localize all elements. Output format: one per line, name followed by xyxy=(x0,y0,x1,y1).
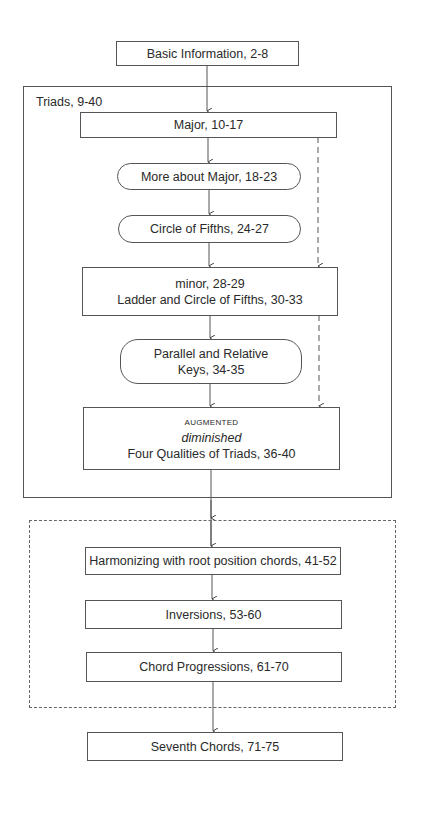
node-label-line1: Parallel and Relative xyxy=(154,346,269,362)
node-label-line1: minor, 28-29 xyxy=(175,276,244,292)
node-label: Seventh Chords, 71-75 xyxy=(151,739,280,755)
group-label-triads: Triads, 9-40 xyxy=(36,95,102,109)
node-parallel-relative-keys: Parallel and Relative Keys, 34-35 xyxy=(120,339,302,384)
node-chord-progressions: Chord Progressions, 61-70 xyxy=(86,652,342,682)
node-four-qualities: AUGMENTED diminished Four Qualities of T… xyxy=(83,407,340,470)
node-label: Chord Progressions, 61-70 xyxy=(139,659,288,675)
node-label-augmented: AUGMENTED xyxy=(185,416,239,430)
node-more-about-major: More about Major, 18-23 xyxy=(117,163,301,190)
node-label: Basic Information, 2-8 xyxy=(147,46,269,62)
node-label: Major, 10-17 xyxy=(174,117,243,133)
node-circle-of-fifths: Circle of Fifths, 24-27 xyxy=(118,215,301,243)
node-harmonizing: Harmonizing with root position chords, 4… xyxy=(85,547,341,575)
node-seventh-chords: Seventh Chords, 71-75 xyxy=(87,732,343,761)
node-inversions: Inversions, 53-60 xyxy=(85,600,342,629)
node-major: Major, 10-17 xyxy=(80,112,337,138)
node-label: More about Major, 18-23 xyxy=(141,169,277,185)
node-label-line2: Ladder and Circle of Fifths, 30-33 xyxy=(117,292,303,308)
node-basic-information: Basic Information, 2-8 xyxy=(116,41,299,66)
node-label: Inversions, 53-60 xyxy=(166,607,262,623)
node-label-line2: Keys, 34-35 xyxy=(178,362,245,378)
node-label-diminished: diminished xyxy=(182,430,242,446)
node-label-qualities: Four Qualities of Triads, 36-40 xyxy=(127,446,295,462)
node-label: Harmonizing with root position chords, 4… xyxy=(89,553,336,569)
node-label: Circle of Fifths, 24-27 xyxy=(150,221,269,237)
node-minor: minor, 28-29 Ladder and Circle of Fifths… xyxy=(82,267,338,316)
